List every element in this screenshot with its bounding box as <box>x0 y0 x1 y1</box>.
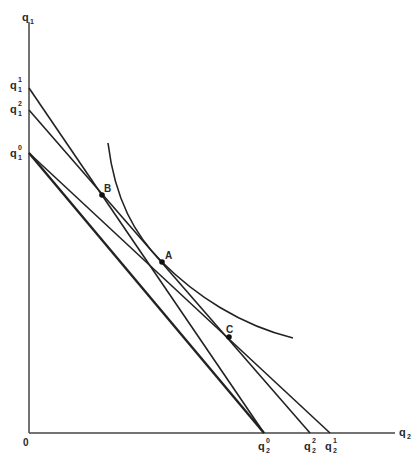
budget-line-0 <box>29 153 264 433</box>
y-intercept-q1-1: q11 <box>10 80 17 91</box>
x-axis-label: q2 <box>399 427 406 438</box>
budget-line-q1-0-to-q2-1 <box>29 153 330 433</box>
origin-label: 0 <box>23 438 29 448</box>
point-C-marker <box>226 334 232 340</box>
indifference-curve <box>108 143 293 338</box>
y-axis-label: q1 <box>22 12 29 23</box>
point-A-label: A <box>165 250 172 261</box>
budget-line-2 <box>29 110 310 433</box>
x-intercept-q2-2: q22 <box>304 441 311 452</box>
point-A-marker <box>159 259 165 265</box>
budget-line-q1-1-to-q2-0 <box>29 88 264 433</box>
x-intercept-q2-0: q02 <box>258 441 265 452</box>
diagram-canvas <box>0 0 420 461</box>
point-B-label: B <box>104 183 111 194</box>
x-intercept-q2-1: q12 <box>325 441 332 452</box>
y-intercept-q1-0: q01 <box>10 148 17 159</box>
y-intercept-q1-2: q21 <box>10 104 17 115</box>
point-C-label: C <box>226 324 233 335</box>
